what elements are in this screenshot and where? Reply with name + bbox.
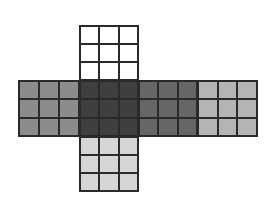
cube-cell [158,81,177,99]
cube-cell [80,137,99,155]
face-right [138,80,198,137]
cube-cell [237,99,257,117]
cube-cell [218,81,238,99]
cube-cell [59,99,79,117]
cube-cell [19,118,39,136]
cube-cell [80,81,99,99]
cube-cell [119,62,138,80]
face-back [197,80,258,137]
face-front [79,80,139,137]
cube-cell [237,81,257,99]
cube-cell [80,118,99,136]
cube-cell [158,99,177,117]
cube-cell [39,99,59,117]
cube-cell [139,99,158,117]
cube-cell [198,81,218,99]
cube-cell [80,99,99,117]
face-top [79,25,139,81]
cube-cell [139,81,158,99]
cube-cell [80,173,99,191]
cube-cell [99,44,118,62]
cube-cell [59,81,79,99]
cube-cell [19,99,39,117]
cube-cell [119,44,138,62]
cube-cell [139,118,158,136]
cube-cell [99,81,118,99]
cube-cell [99,173,118,191]
cube-cell [99,26,118,44]
cube-cell [218,99,238,117]
cube-cell [119,173,138,191]
face-left [18,80,80,137]
cube-cell [119,81,138,99]
cube-cell [119,99,138,117]
cube-cell [99,137,118,155]
cube-cell [178,99,197,117]
face-bottom [79,136,139,192]
cube-cell [237,118,257,136]
cube-cell [19,81,39,99]
cube-cell [99,62,118,80]
cube-cell [178,81,197,99]
cube-cell [119,118,138,136]
cube-cell [198,118,218,136]
cube-cell [59,118,79,136]
cube-cell [80,26,99,44]
cube-cell [39,118,59,136]
cube-cell [39,81,59,99]
cube-cell [99,118,118,136]
cube-cell [119,155,138,173]
cube-cell [198,99,218,117]
cube-cell [80,44,99,62]
cube-cell [99,99,118,117]
cube-cell [158,118,177,136]
cube-cell [119,26,138,44]
cube-cell [178,118,197,136]
cube-cell [99,155,118,173]
cube-cell [80,62,99,80]
cube-cell [80,155,99,173]
cube-cell [218,118,238,136]
cube-cell [119,137,138,155]
